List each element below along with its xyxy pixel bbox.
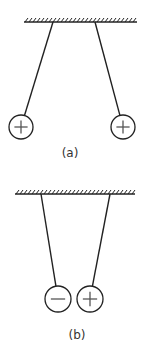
panel-b-opposite-charges: (b) — [15, 190, 135, 342]
thread — [95, 22, 120, 115]
thread — [41, 194, 56, 286]
panel-label: (b) — [69, 328, 86, 342]
negative-sphere — [45, 286, 71, 312]
panel-label: (a) — [62, 146, 79, 160]
positive-sphere — [9, 115, 33, 139]
positive-sphere — [77, 286, 103, 312]
positive-sphere — [111, 115, 135, 139]
thread — [24, 22, 53, 116]
charged-spheres-diagram: (a) (b) — [0, 0, 145, 353]
thread — [92, 194, 110, 286]
panel-a-like-charges: (a) — [9, 18, 137, 160]
